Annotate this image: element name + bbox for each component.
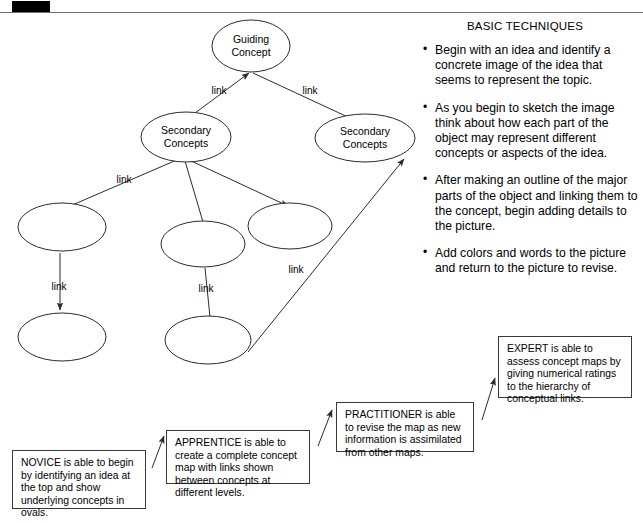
oval-empty-d (248, 203, 332, 249)
techniques-title: BASIC TECHNIQUES (398, 20, 638, 32)
node-label-guiding-line1: Guiding (233, 33, 269, 45)
technique-item-3: After making an outline of the major par… (424, 173, 638, 234)
link-label-2: link (302, 85, 318, 96)
link-secondaryleft-to-oval-c (185, 161, 203, 222)
technique-item-1: Begin with an idea and identify a concre… (424, 43, 638, 89)
link-label-1: link (211, 85, 227, 96)
link-label-6: link (288, 264, 304, 275)
oval-empty-e (165, 316, 251, 364)
node-label-secondary-left-line2: Concepts (164, 137, 208, 149)
oval-empty-b (18, 313, 106, 361)
link-oval-e-to-secondary-right (248, 159, 404, 352)
techniques-list: Begin with an idea and identify a concre… (398, 43, 638, 277)
level-box-expert: EXPERT is able to assess concept maps by… (498, 336, 632, 398)
node-label-secondary-left-line1: Secondary (161, 124, 212, 136)
basic-techniques-panel: BASIC TECHNIQUES Begin with an idea and … (398, 20, 638, 289)
link-label-5: link (198, 283, 214, 294)
oval-empty-c (161, 221, 245, 267)
page-canvas: Guiding Concept Secondary Concepts Secon… (0, 0, 643, 523)
node-label-secondary-right-line2: Concepts (343, 138, 387, 150)
level-box-practitioner: PRACTITIONER is able to revise the map a… (336, 402, 474, 452)
node-guiding-concept: Guiding Concept (212, 20, 290, 72)
node-secondary-concepts-left: Secondary Concepts (141, 112, 231, 162)
arrow-practitioner-to-expert (482, 378, 495, 420)
arrow-novice-to-apprentice (152, 436, 164, 468)
link-label-3: link (116, 174, 132, 185)
node-label-secondary-right-line1: Secondary (340, 125, 391, 137)
level-box-apprentice: APPRENTICE is able to create a complete … (166, 430, 310, 484)
link-secondaryleft-to-oval-d (189, 160, 288, 206)
level-box-novice: NOVICE is able to begin by identifying a… (12, 450, 146, 509)
oval-empty-a (18, 203, 106, 251)
link-label-4: link (51, 281, 67, 292)
technique-item-2: As you begin to sketch the image think a… (424, 101, 638, 162)
arrow-apprentice-to-practitioner (318, 410, 332, 446)
node-label-guiding-line2: Concept (231, 46, 270, 58)
technique-item-4: Add colors and words to the picture and … (424, 246, 638, 276)
